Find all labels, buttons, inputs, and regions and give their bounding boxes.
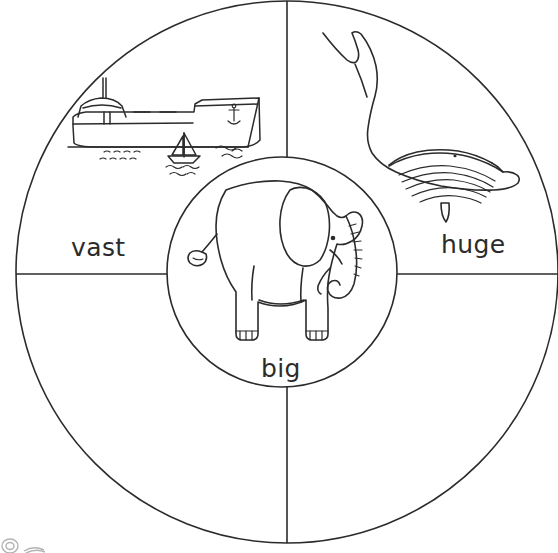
ship-deck-line	[73, 123, 193, 124]
whale-flipper	[441, 203, 449, 222]
elephant-eye	[331, 236, 336, 241]
whale-throat-pleats	[399, 166, 495, 203]
segment-label-vast: vast	[71, 235, 126, 260]
word-wheel-canvas: vast huge big	[0, 0, 558, 553]
ship-deck-line-2	[195, 104, 258, 106]
whale-tailstock-line	[355, 64, 367, 97]
water-marks	[100, 146, 242, 176]
sailboat-sail-jib	[172, 136, 183, 155]
illustration-cargo-ship	[68, 78, 260, 147]
segment-label-big: big	[261, 356, 301, 381]
ship-anchor-icon	[228, 104, 240, 124]
ship-bridge-window-line	[83, 105, 121, 108]
word-wheel-illustration	[0, 0, 558, 553]
whale-jaw-outline	[389, 150, 492, 165]
inner-circle	[167, 157, 397, 387]
corner-watermark	[2, 539, 45, 553]
whale-body-outline	[323, 32, 519, 190]
whale-blowhole	[453, 155, 456, 157]
segment-label-huge: huge	[441, 232, 506, 257]
sailboat-sail-main	[184, 133, 196, 155]
ship-bow-edge	[248, 98, 259, 147]
illustration-sailboat	[168, 133, 200, 163]
